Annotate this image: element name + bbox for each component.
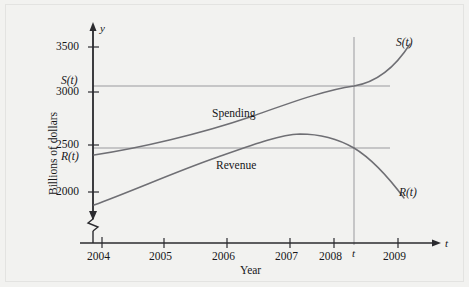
revenue-annotation: Revenue [216, 160, 256, 172]
s-of-t-level-label: S(t) [61, 75, 78, 87]
x-tick-label-2009: 2009 [383, 251, 406, 263]
x-tick-label-2007: 2007 [275, 251, 298, 263]
axis-break-symbol [88, 219, 98, 231]
s-of-t-curve-label: S(t) [396, 37, 413, 49]
x-axis-title: Year [240, 265, 261, 277]
x-tick-label-2006: 2006 [212, 251, 235, 263]
y-tick-label-3500: 3500 [56, 41, 79, 53]
y-axis-title: Billions of dollars [48, 112, 60, 195]
y-tick-label-2500: 2500 [56, 139, 79, 151]
r-of-t-level-label: R(t) [61, 151, 79, 163]
x-axis-variable-label: t [445, 238, 448, 249]
y-tick-label-3000: 3000 [56, 86, 79, 98]
spending-annotation: Spending [212, 108, 255, 120]
s-of-t-level-text: S(t) [61, 74, 78, 86]
x-tick-label-2008: 2008 [319, 251, 342, 263]
r-of-t-level-text: R(t) [61, 150, 79, 162]
t-marker-label: t [352, 248, 355, 259]
spending-curve [94, 44, 410, 155]
x-axis-arrowhead [432, 240, 441, 247]
y-axis-variable-label: y [100, 23, 105, 34]
y-tick-label-2000: 2000 [56, 186, 79, 198]
x-tick-label-2005: 2005 [149, 251, 172, 263]
r-of-t-curve-label: R(t) [399, 187, 417, 199]
figure-container: Billions of dollars y t 3500 3000 2500 2… [0, 0, 469, 287]
x-tick-label-2004: 2004 [87, 251, 110, 263]
